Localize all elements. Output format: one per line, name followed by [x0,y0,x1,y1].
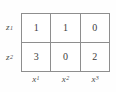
row-label-z1: z1 [0,13,21,43]
matrix-cell-r1c2: 1 [51,14,80,42]
matrix-cell-r2c3: 2 [81,43,109,71]
row-label-z2: z2 [0,43,21,73]
matrix-cell-r2c2: 0 [51,43,80,71]
column-label-x1-subscript: 1 [36,75,39,81]
row-label-z1-subscript: 1 [10,25,13,31]
matrix-cell-r1c1: 1 [22,14,51,42]
matrix-row-2: 3 0 2 [22,43,109,71]
column-label-x2-subscript: 2 [66,75,69,81]
matrix-grid: 1 1 0 3 0 2 [21,13,110,72]
matrix-figure: z1 z2 1 1 0 3 0 2 x1 x2 x3 [0,0,116,92]
row-label-z2-subscript: 2 [10,54,13,60]
matrix-cell-r2c1: 3 [22,43,51,71]
column-label-x3: x3 [80,72,110,92]
row-label-group: z1 z2 [0,13,21,72]
column-label-group: x1 x2 x3 [21,72,110,92]
column-label-x1: x1 [21,72,51,92]
column-label-x2: x2 [51,72,81,92]
matrix-row-1: 1 1 0 [22,14,109,43]
matrix-cell-r1c3: 0 [81,14,109,42]
column-label-x3-subscript: 3 [96,75,99,81]
